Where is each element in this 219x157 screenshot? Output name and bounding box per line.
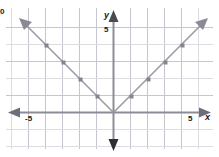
- data-point: [79, 78, 83, 82]
- coordinate-plane-figure: y x 5 5 -5 0: [0, 0, 219, 157]
- data-point: [45, 44, 49, 48]
- data-point: [181, 44, 185, 48]
- x-axis-arrow-left: [8, 108, 20, 118]
- curve-left-branch: [24, 23, 114, 113]
- curve-right-branch: [114, 23, 204, 113]
- data-point: [96, 95, 100, 99]
- data-point: [147, 78, 151, 82]
- x-axis-label: x: [205, 113, 210, 122]
- plot-canvas: [0, 0, 219, 157]
- data-point: [130, 95, 134, 99]
- data-point: [62, 61, 66, 65]
- y-axis-tick-label-5: 5: [104, 26, 108, 34]
- data-point: [164, 61, 168, 65]
- y-axis-arrow-up: [109, 10, 119, 22]
- y-axis-label: y: [104, 11, 109, 20]
- y-axis-arrow-down: [109, 139, 119, 151]
- x-axis-tick-label-neg5: -5: [25, 115, 32, 123]
- x-axis-tick-label-5: 5: [188, 115, 192, 123]
